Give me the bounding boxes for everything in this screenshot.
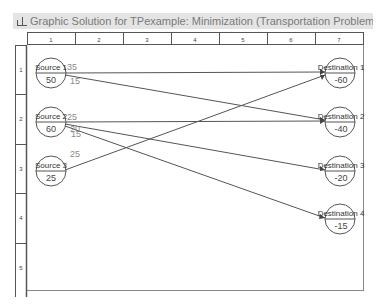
flow-amount: 35 bbox=[67, 62, 77, 72]
arc-s2-d4[interactable] bbox=[65, 126, 325, 218]
destination-node[interactable]: Destination 4 -15 bbox=[318, 204, 365, 234]
node-value: 50 bbox=[46, 75, 56, 85]
source-node[interactable]: Source 3 25 bbox=[35, 156, 68, 186]
destination-node[interactable]: Destination 2 -40 bbox=[318, 107, 365, 137]
destination-node[interactable]: Destination 3 -20 bbox=[318, 156, 365, 186]
arc-s2-d3[interactable] bbox=[65, 124, 325, 170]
row-label: 1 bbox=[19, 67, 23, 73]
destination-node[interactable]: Destination 1 -60 bbox=[318, 58, 365, 88]
row-label: 5 bbox=[19, 265, 23, 271]
flow-amount: 15 bbox=[70, 76, 80, 86]
flow-arcs bbox=[65, 72, 325, 218]
arc-s1-d2[interactable] bbox=[65, 75, 325, 120]
arc-s3-d1[interactable] bbox=[65, 75, 325, 170]
arc-s1-d1[interactable] bbox=[65, 72, 325, 73]
flow-amount: 25 bbox=[70, 149, 80, 159]
arrow-heads bbox=[319, 69, 325, 219]
node-value: -60 bbox=[334, 75, 347, 85]
column-label: 2 bbox=[97, 37, 101, 43]
node-label: Source 3 bbox=[35, 161, 68, 170]
node-label: Source 2 bbox=[35, 112, 68, 121]
node-value: -15 bbox=[334, 221, 347, 231]
node-label: Destination 4 bbox=[318, 209, 365, 218]
column-label: 7 bbox=[337, 37, 341, 43]
flow-amount: 25 bbox=[67, 112, 77, 122]
row-label: 2 bbox=[19, 116, 23, 122]
node-label: Destination 2 bbox=[318, 112, 365, 121]
node-label: Destination 1 bbox=[318, 63, 365, 72]
source-node[interactable]: Source 2 60 bbox=[35, 107, 68, 137]
column-label: 4 bbox=[193, 37, 197, 43]
flow-amount: 15 bbox=[71, 129, 81, 139]
arc-s2-d2[interactable] bbox=[65, 121, 325, 122]
column-label: 3 bbox=[145, 37, 149, 43]
row-label: 3 bbox=[19, 166, 23, 172]
node-value: -40 bbox=[334, 124, 347, 134]
column-label: 1 bbox=[49, 37, 53, 43]
source-node[interactable]: Source 1 50 bbox=[35, 58, 68, 88]
column-label: 5 bbox=[241, 37, 245, 43]
node-value: -20 bbox=[334, 173, 347, 183]
node-value: 25 bbox=[46, 173, 56, 183]
node-label: Destination 3 bbox=[318, 161, 365, 170]
row-label: 4 bbox=[19, 215, 23, 221]
node-label: Source 1 bbox=[35, 63, 68, 72]
node-value: 60 bbox=[46, 124, 56, 134]
network-graph: 1 2 3 4 5 6 7 1 2 3 4 5 bbox=[0, 0, 378, 305]
column-label: 6 bbox=[289, 37, 293, 43]
